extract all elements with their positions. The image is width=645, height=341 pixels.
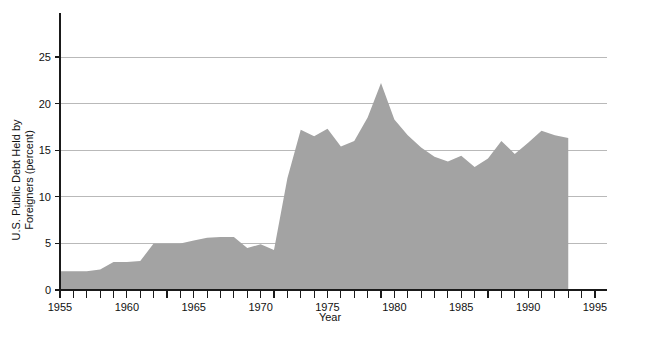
y-axis-title-line-2: Foreigners (percent)	[23, 130, 35, 230]
series-area-debt-held-by-foreigners	[60, 83, 568, 290]
y-tick-label-20: 20	[39, 98, 51, 110]
x-tick-label-1995: 1995	[583, 301, 607, 313]
y-axis-title: U.S. Public Debt Held by Foreigners (per…	[10, 119, 35, 241]
x-tick-label-1955: 1955	[48, 301, 72, 313]
y-axis-title-line-1: U.S. Public Debt Held by	[10, 119, 22, 241]
chart-container: 0510152025 19551960196519701975198019851…	[0, 0, 645, 341]
x-tick-label-1980: 1980	[382, 301, 406, 313]
x-tick-label-1970: 1970	[248, 301, 272, 313]
area-chart: 0510152025 19551960196519701975198019851…	[0, 0, 645, 341]
x-tick-label-1990: 1990	[516, 301, 540, 313]
y-tick-label-10: 10	[39, 191, 51, 203]
y-axis	[55, 13, 60, 290]
x-axis	[60, 290, 607, 298]
y-axis-tick-labels: 0510152025	[39, 51, 51, 296]
x-tick-label-1960: 1960	[115, 301, 139, 313]
x-tick-label-1985: 1985	[449, 301, 473, 313]
y-tick-label-5: 5	[45, 237, 51, 249]
x-axis-title: Year	[319, 311, 342, 323]
area-series-path	[60, 83, 568, 290]
y-tick-label-25: 25	[39, 51, 51, 63]
y-tick-label-15: 15	[39, 144, 51, 156]
y-tick-label-0: 0	[45, 284, 51, 296]
x-tick-label-1965: 1965	[182, 301, 206, 313]
